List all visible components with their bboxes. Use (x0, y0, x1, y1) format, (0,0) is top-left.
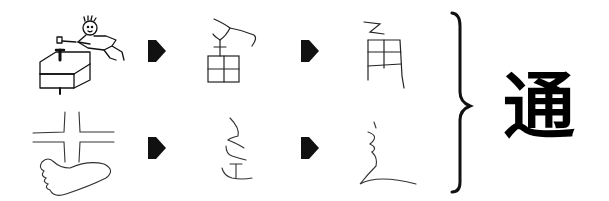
right-arrow-icon (147, 38, 167, 64)
right-arrow-icon (147, 135, 167, 161)
right-arrow-icon (300, 135, 320, 161)
late-glyph-yong-component (360, 18, 410, 90)
result-character: 通 (494, 66, 584, 146)
early-glyph-chuo (216, 116, 256, 186)
early-glyph-yong (200, 16, 266, 86)
right-curly-brace-icon (448, 10, 474, 194)
right-arrow-icon (300, 38, 320, 64)
pictograph-hammer-box (30, 8, 140, 96)
late-glyph-chuo-radical (358, 118, 418, 190)
pictograph-crossroads-foot (30, 108, 120, 198)
